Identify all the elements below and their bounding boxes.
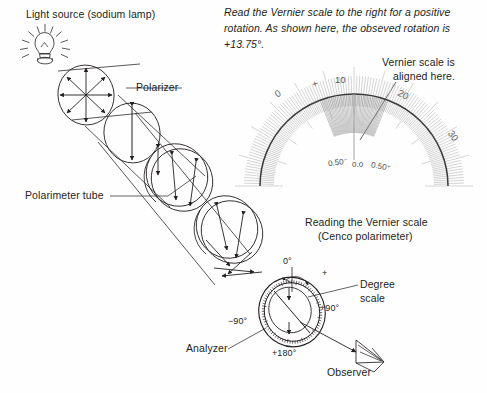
dial-minus90-label: −90° xyxy=(228,316,247,328)
instruction-block: Read the Vernier scale to the right for … xyxy=(224,6,450,52)
degree-scale-label-line2: scale xyxy=(360,292,385,306)
dial-plus90-label: +90° xyxy=(320,303,339,315)
vernier-label-10: 10 xyxy=(335,74,346,85)
analyzer-label: Analyzer xyxy=(186,342,228,356)
instruction-line-1: Read the Vernier scale to the right for … xyxy=(224,6,450,20)
tube-entrance-rim xyxy=(134,131,226,223)
vernier-aligned-note-line1: Vernier scale is xyxy=(382,56,455,70)
polarimeter-tube-label: Polarimeter tube xyxy=(25,189,104,203)
observer-label: Observer xyxy=(327,366,371,380)
light-source-label: Light source (sodium lamp) xyxy=(26,8,155,22)
polarimeter-figure: Light source (sodium lamp) Polarizer Pol… xyxy=(0,0,487,393)
reading-caption-line2: (Cenco polarimeter) xyxy=(318,230,413,244)
dial-plus-label: + xyxy=(322,268,327,280)
tube-polarization-arrows-b xyxy=(217,206,243,258)
degree-scale-label-line1: Degree xyxy=(360,278,395,292)
vernier-aligned-note-line2: aligned here. xyxy=(393,70,455,84)
vernier-fine-label-zero: 0.0 xyxy=(352,160,363,169)
reading-caption-line1: Reading the Vernier scale xyxy=(305,216,428,230)
beam-barrel xyxy=(58,64,250,285)
instruction-line-3: +13.75°. xyxy=(224,38,450,52)
polarizer-label: Polarizer xyxy=(136,81,178,95)
dial-plus180-label: +180° xyxy=(272,348,296,360)
sodium-lamp-icon xyxy=(20,24,70,64)
polarizer-disc xyxy=(98,98,165,168)
instruction-line-2: rotation. As shown here, the obseved rot… xyxy=(224,22,450,36)
tube-mid-rim xyxy=(184,183,276,275)
dial-zero-label: 0° xyxy=(283,256,292,268)
